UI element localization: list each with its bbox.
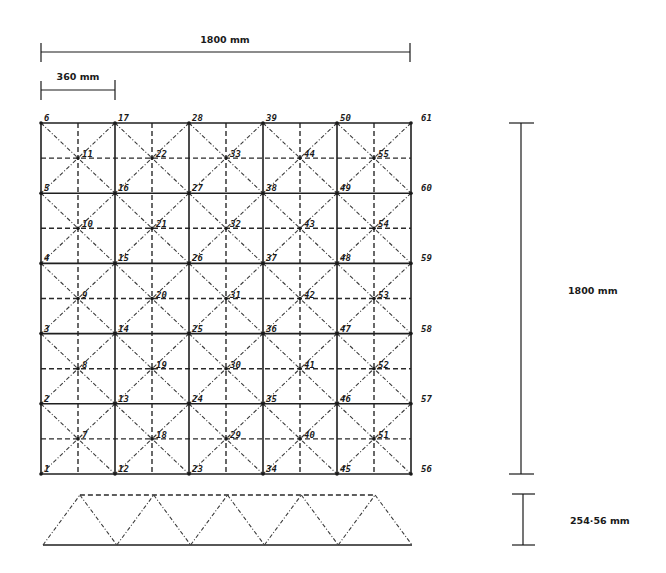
- top-node-label: 26: [191, 253, 203, 263]
- top-node: [39, 402, 43, 406]
- bottom-node-label: 55: [378, 149, 389, 159]
- top-node: [39, 332, 43, 336]
- bottom-node-label: 51: [378, 430, 389, 440]
- total-width-label: 1800 mm: [200, 34, 250, 45]
- bottom-node: [372, 227, 376, 231]
- bottom-node-label: 21: [155, 219, 167, 229]
- bottom-node: [224, 227, 228, 231]
- top-node: [113, 262, 117, 266]
- top-node-label: 48: [340, 253, 351, 263]
- top-node-label: 38: [265, 183, 277, 193]
- bottom-node-label: 43: [304, 219, 315, 229]
- bottom-node-label: 40: [304, 430, 315, 440]
- plan-view-grid: 1234561213141516172324252627283435363738…: [39, 113, 432, 476]
- top-node: [335, 472, 339, 476]
- top-node: [335, 332, 339, 336]
- top-node-label: 56: [421, 464, 432, 474]
- top-node-label: 16: [118, 183, 129, 193]
- top-node: [261, 262, 265, 266]
- top-node: [187, 191, 191, 195]
- top-node: [187, 121, 191, 125]
- bottom-node-label: 54: [378, 219, 389, 229]
- top-node-label: 15: [118, 253, 129, 263]
- top-node: [261, 472, 265, 476]
- bottom-node-label: 53: [378, 290, 389, 300]
- top-node: [261, 121, 265, 125]
- bottom-node: [224, 437, 228, 441]
- top-node-label: 35: [265, 394, 277, 404]
- bottom-node-label: 30: [229, 360, 241, 370]
- top-node-label: 24: [191, 394, 203, 404]
- bottom-node: [76, 297, 80, 301]
- bottom-node: [150, 227, 154, 231]
- bottom-node: [224, 156, 228, 160]
- bottom-node: [76, 227, 80, 231]
- space-truss-diagram: 1800 mm 360 mm 1234561213141516172324252…: [0, 0, 666, 573]
- total-height-dimension: 1800 mm: [509, 123, 618, 474]
- top-node-label: 36: [265, 324, 277, 334]
- bottom-node-label: 22: [155, 149, 167, 159]
- bottom-node: [76, 156, 80, 160]
- top-node-label: 2: [43, 394, 49, 404]
- total-height-label: 1800 mm: [568, 285, 618, 296]
- bottom-node: [298, 437, 302, 441]
- top-node: [113, 121, 117, 125]
- top-node-label: 61: [421, 113, 432, 123]
- top-node: [409, 121, 413, 125]
- top-node-label: 49: [340, 183, 351, 193]
- top-node-label: 37: [265, 253, 277, 263]
- bottom-node-label: 9: [82, 290, 87, 300]
- depth-dimension: 254·56 mm: [512, 494, 630, 545]
- bottom-node-label: 31: [229, 290, 241, 300]
- top-node-label: 17: [118, 113, 129, 123]
- top-node: [113, 332, 117, 336]
- top-node-label: 3: [43, 324, 49, 334]
- top-node-label: 23: [191, 464, 203, 474]
- bottom-node: [150, 156, 154, 160]
- top-node: [409, 262, 413, 266]
- bottom-node-label: 10: [82, 219, 93, 229]
- top-node-label: 45: [340, 464, 351, 474]
- top-node-label: 12: [118, 464, 129, 474]
- top-node-label: 27: [191, 183, 203, 193]
- top-node-label: 57: [421, 394, 432, 404]
- top-node: [261, 332, 265, 336]
- top-node-label: 28: [191, 113, 203, 123]
- top-node: [261, 191, 265, 195]
- bottom-node: [76, 437, 80, 441]
- top-node-label: 14: [118, 324, 129, 334]
- bottom-node: [298, 297, 302, 301]
- top-node: [39, 121, 43, 125]
- module-width-label: 360 mm: [57, 71, 100, 82]
- top-node-label: 6: [44, 113, 50, 123]
- bottom-node: [150, 367, 154, 371]
- bottom-node: [372, 367, 376, 371]
- total-width-dimension: 1800 mm: [41, 34, 410, 62]
- top-node: [187, 332, 191, 336]
- top-node-label: 25: [191, 324, 203, 334]
- bottom-node-label: 18: [156, 430, 167, 440]
- module-width-dimension: 360 mm: [41, 71, 115, 100]
- top-node: [113, 472, 117, 476]
- top-node-label: 47: [340, 324, 351, 334]
- bottom-node: [224, 367, 228, 371]
- top-node-label: 58: [421, 324, 432, 334]
- top-node: [113, 402, 117, 406]
- top-node: [39, 472, 43, 476]
- top-node: [409, 402, 413, 406]
- bottom-node: [150, 297, 154, 301]
- top-node: [409, 191, 413, 195]
- bottom-node-label: 41: [304, 360, 315, 370]
- top-node-label: 13: [118, 394, 129, 404]
- top-node-label: 39: [265, 113, 277, 123]
- top-node: [187, 472, 191, 476]
- depth-label: 254·56 mm: [570, 515, 630, 526]
- bottom-node-label: 20: [155, 290, 167, 300]
- bottom-node: [76, 367, 80, 371]
- bottom-node-label: 33: [229, 149, 241, 159]
- top-node: [335, 121, 339, 125]
- bottom-node: [298, 156, 302, 160]
- top-node: [187, 262, 191, 266]
- bottom-node: [298, 227, 302, 231]
- top-node-label: 46: [340, 394, 351, 404]
